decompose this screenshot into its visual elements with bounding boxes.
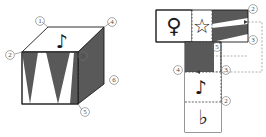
cube-vertex-label-5-text: 5 — [83, 108, 87, 116]
cube-vertex-label-3-text: 3 — [81, 52, 85, 60]
cube-vertex-label-4: 4 — [108, 18, 117, 27]
net-vertex-label-5-text: 5 — [215, 43, 219, 51]
cube-vertex-label-6: 6 — [110, 76, 119, 85]
cube-top-eighth-note-icon: ♪ — [56, 30, 68, 52]
cube-vertex-label-1: 1 — [36, 17, 45, 26]
net-vertex-label-4: 4 — [174, 66, 183, 75]
net-eighth-note-icon: ♪ — [195, 76, 207, 98]
cube-vertex-label-5: 5 — [81, 108, 90, 117]
net-star-icon: ☆ — [193, 14, 211, 38]
net-vertex-label-2-bottom: 2 — [222, 97, 231, 106]
net-vertex-label-2-top: 2 — [249, 5, 258, 14]
figure-root: ♪ 1 2 3 4 5 6 — [0, 0, 266, 137]
cube-vertex-label-2-text: 2 — [8, 51, 12, 59]
cube-diagram: ♪ 1 2 3 4 5 6 — [6, 17, 119, 117]
net-vertex-label-3-mid: 3 — [222, 66, 231, 75]
net-venus-icon: ♀ — [166, 14, 181, 38]
cube-vertex-label-1-text: 1 — [38, 17, 42, 25]
net-vertex-label-4-text: 4 — [176, 66, 180, 74]
cube-vertex-label-6-text: 6 — [112, 76, 116, 84]
cube-vertex-label-2: 2 — [6, 51, 15, 60]
figure-svg: ♪ 1 2 3 4 5 6 — [0, 0, 266, 137]
net-vertex-label-3-right: 3 — [249, 36, 258, 45]
net-vertex-label-2-bottom-text: 2 — [224, 97, 228, 105]
cube-vertex-label-4-text: 4 — [110, 18, 114, 26]
unfolded-net: ♀ ☆ ♪ ♭ 2 3 5 4 3 2 — [156, 5, 262, 132]
net-flat-icon: ♭ — [198, 105, 207, 129]
net-cell-solid — [185, 42, 214, 72]
net-vertex-label-3-mid-text: 3 — [224, 66, 228, 74]
cube-leader-2 — [15, 52, 22, 54]
net-vertex-label-3-right-text: 3 — [251, 36, 255, 44]
net-vertex-label-2-top-text: 2 — [251, 5, 255, 13]
